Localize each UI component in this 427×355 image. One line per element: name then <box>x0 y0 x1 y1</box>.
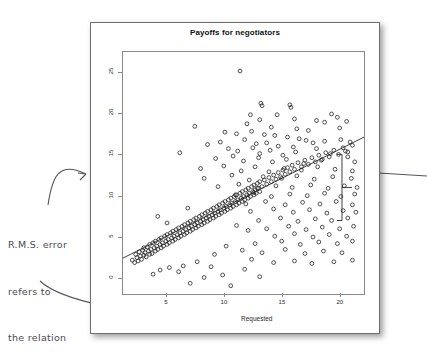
data-point <box>339 138 343 142</box>
data-point <box>333 167 337 171</box>
data-point <box>326 186 330 190</box>
data-point <box>158 268 162 272</box>
data-point <box>309 183 313 187</box>
data-point <box>322 249 326 253</box>
data-point <box>295 174 299 178</box>
data-point <box>334 200 338 204</box>
data-point <box>223 130 227 134</box>
data-point <box>260 251 264 255</box>
data-point <box>315 119 319 123</box>
data-point <box>345 119 349 123</box>
data-point <box>272 207 276 211</box>
data-point <box>303 252 307 256</box>
data-point <box>202 276 206 280</box>
data-point <box>258 152 262 156</box>
data-point <box>288 170 292 174</box>
data-point <box>199 167 203 171</box>
data-point <box>290 163 294 167</box>
data-point <box>286 135 290 139</box>
data-point <box>315 147 319 151</box>
data-point <box>332 260 336 264</box>
data-point <box>353 160 357 164</box>
data-point <box>338 227 342 231</box>
data-point <box>325 211 329 215</box>
data-point <box>213 252 217 256</box>
chart-title: Payoffs for negotiators <box>91 28 379 37</box>
data-point <box>193 124 197 128</box>
data-point <box>293 232 297 236</box>
data-point <box>349 176 353 180</box>
data-point <box>288 192 292 196</box>
data-point <box>330 219 334 223</box>
data-point <box>344 149 348 153</box>
arrow-head-up <box>78 173 86 180</box>
data-point <box>296 219 300 223</box>
data-point <box>310 156 314 160</box>
data-point <box>265 227 269 231</box>
data-point <box>242 159 246 163</box>
y-tick-label: 15 <box>108 146 114 160</box>
data-point <box>305 194 309 198</box>
data-point <box>316 165 320 169</box>
data-points <box>130 69 359 288</box>
data-point <box>304 138 308 142</box>
data-point <box>250 257 254 261</box>
data-point <box>304 228 308 232</box>
data-point <box>238 69 242 73</box>
data-point <box>351 258 355 262</box>
data-point <box>246 229 250 233</box>
data-point <box>222 164 226 168</box>
data-point <box>156 214 160 218</box>
data-point <box>302 162 306 166</box>
data-point <box>297 137 301 141</box>
data-point <box>257 219 261 223</box>
data-point <box>352 224 356 228</box>
data-point <box>312 177 316 181</box>
data-point <box>283 203 287 207</box>
data-point <box>351 203 355 207</box>
x-tick-label: 15 <box>276 299 288 305</box>
data-point <box>214 157 218 161</box>
data-point <box>346 155 350 159</box>
data-point <box>240 248 244 252</box>
data-point <box>221 273 225 277</box>
data-point <box>281 153 285 157</box>
data-point <box>311 235 315 239</box>
data-point <box>254 142 258 146</box>
y-tick-label: 20 <box>108 105 114 119</box>
data-point <box>202 176 206 180</box>
data-point <box>355 186 359 190</box>
data-point <box>293 167 297 171</box>
y-tick-label: 5 <box>108 229 114 243</box>
data-point <box>267 170 271 174</box>
figure-card: Payoffs for negotiators Received Request… <box>90 22 380 334</box>
data-point <box>249 210 253 214</box>
plot-panel <box>122 51 365 295</box>
scatter-plot-svg <box>123 52 364 294</box>
data-point <box>244 202 248 206</box>
data-point <box>276 144 280 148</box>
data-point <box>290 186 294 190</box>
data-point <box>272 173 276 177</box>
data-point <box>340 251 344 255</box>
data-point <box>257 156 261 160</box>
data-point <box>318 202 322 206</box>
data-point <box>351 169 355 173</box>
y-tick-label: 25 <box>108 64 114 78</box>
data-point <box>262 133 266 137</box>
data-point <box>279 216 283 220</box>
data-point <box>353 192 357 196</box>
data-point <box>335 242 339 246</box>
data-point <box>231 154 235 158</box>
data-point <box>327 233 331 237</box>
x-tick-label: 20 <box>334 299 346 305</box>
data-point <box>218 140 222 144</box>
x-tick-label: 10 <box>218 299 230 305</box>
data-point <box>227 147 231 151</box>
data-point <box>265 141 269 145</box>
data-point <box>230 173 234 177</box>
data-point <box>188 281 192 285</box>
data-point <box>181 264 185 268</box>
data-point <box>253 242 257 246</box>
note-line-1: R.M.S. error <box>8 237 73 253</box>
